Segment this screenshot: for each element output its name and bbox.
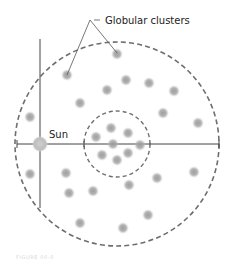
inner-globular-cluster <box>111 154 123 166</box>
globular-cluster <box>192 117 204 129</box>
inner-globular-cluster <box>96 149 108 161</box>
leader-line-left <box>67 20 90 75</box>
globular-clusters-label: Globular clusters <box>105 15 190 26</box>
figure-caption: FIGURE 00-0 <box>16 254 54 260</box>
inner-globular-cluster <box>90 131 102 143</box>
globular-cluster <box>151 172 163 184</box>
sun-marker <box>33 137 48 152</box>
globular-clusters-diagram: Sun Globular clusters FIGURE 00-0 <box>0 0 236 262</box>
globular-cluster <box>143 77 155 89</box>
globular-cluster <box>74 217 86 229</box>
globular-cluster <box>24 168 36 180</box>
globular-cluster <box>168 85 180 97</box>
globular-cluster <box>188 166 200 178</box>
inner-globular-cluster <box>134 139 146 151</box>
inner-globular-cluster <box>122 147 134 159</box>
globular-cluster <box>123 179 135 191</box>
globular-cluster <box>87 185 99 197</box>
globular-cluster <box>111 48 123 60</box>
globular-cluster <box>142 209 154 221</box>
inner-globular-cluster <box>105 122 117 134</box>
globular-cluster <box>24 111 36 123</box>
globular-cluster <box>101 84 113 96</box>
globular-cluster <box>157 107 169 119</box>
globular-cluster <box>117 222 129 234</box>
inner-globular-cluster <box>107 138 119 150</box>
globular-cluster <box>74 97 86 109</box>
globular-cluster <box>120 74 132 86</box>
globular-cluster <box>63 187 75 199</box>
globular-cluster <box>60 167 72 179</box>
inner-globular-cluster <box>122 127 134 139</box>
globular-clusters-group <box>24 48 204 234</box>
sun-label: Sun <box>49 129 68 140</box>
